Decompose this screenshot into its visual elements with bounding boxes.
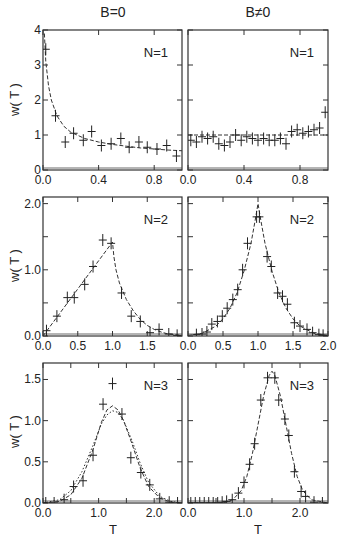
- x-tick-label: 1.5: [285, 339, 302, 353]
- y-tick-label: 0.0: [24, 496, 41, 510]
- plot-panel-row1-left: 0.00.40.801234N=1: [34, 23, 182, 187]
- y-tick-label: 1: [34, 128, 41, 142]
- x-tick-label: 2.0: [320, 339, 337, 353]
- plot-panel-row2-right: 0.00.51.01.52.0N=2: [180, 197, 337, 353]
- x-tick-label: 2.0: [292, 506, 309, 520]
- x-tick-label: 0.5: [215, 339, 232, 353]
- plot-panel-row2-left: 0.00.51.01.50.01.02.0N=2: [24, 197, 182, 353]
- x-tick-label: 1.0: [104, 339, 121, 353]
- x-tick-label: 0.4: [236, 173, 253, 187]
- y-tick-label: 3: [34, 58, 41, 72]
- x-tick-label: 0.0: [180, 173, 197, 187]
- y-tick-label: 1.0: [24, 414, 41, 428]
- x-tick-label: 1.0: [250, 339, 267, 353]
- y-tick-label: 2.0: [24, 197, 41, 211]
- fit-curve-dotted: [43, 411, 182, 503]
- y-tick-label: 1.5: [24, 372, 41, 386]
- x-tick-label: 0.0: [180, 339, 197, 353]
- panel-annotation: N=3: [144, 378, 168, 393]
- fit-curve: [43, 406, 182, 503]
- x-tick-label: 1.5: [139, 339, 156, 353]
- panel-annotation: N=1: [290, 45, 314, 60]
- panel-annotation: N=3: [290, 378, 314, 393]
- x-tick-label: 0.8: [146, 173, 163, 187]
- x-tick-label: 0.5: [69, 339, 86, 353]
- plot-panel-row3-left: 0.01.02.00.00.51.01.5N=3: [24, 363, 182, 520]
- panel-annotation: N=1: [144, 45, 168, 60]
- y-tick-label: 4: [34, 23, 41, 37]
- chart-grid: 0.00.40.801234N=10.00.40.8N=10.00.51.01.…: [0, 0, 341, 546]
- y-tick-label: 0.0: [24, 329, 41, 343]
- y-tick-label: 0.5: [24, 455, 41, 469]
- y-tick-label: 1.0: [24, 263, 41, 277]
- x-tick-label: 1.0: [90, 506, 107, 520]
- x-tick-label: 0.4: [90, 173, 107, 187]
- panel-annotation: N=2: [144, 212, 168, 227]
- x-tick-label: 0.0: [180, 506, 197, 520]
- x-tick-label: 2.0: [146, 506, 163, 520]
- y-tick-label: 2: [34, 93, 41, 107]
- x-tick-label: 1.0: [236, 506, 253, 520]
- fit-curve: [43, 242, 182, 336]
- plot-panel-row3-right: 0.01.02.0N=3: [180, 363, 328, 520]
- panel-annotation: N=2: [290, 212, 314, 227]
- x-tick-label: 0.8: [292, 173, 309, 187]
- plot-panel-row1-right: 0.00.40.8N=1: [180, 30, 330, 187]
- y-tick-label: 0: [34, 163, 41, 177]
